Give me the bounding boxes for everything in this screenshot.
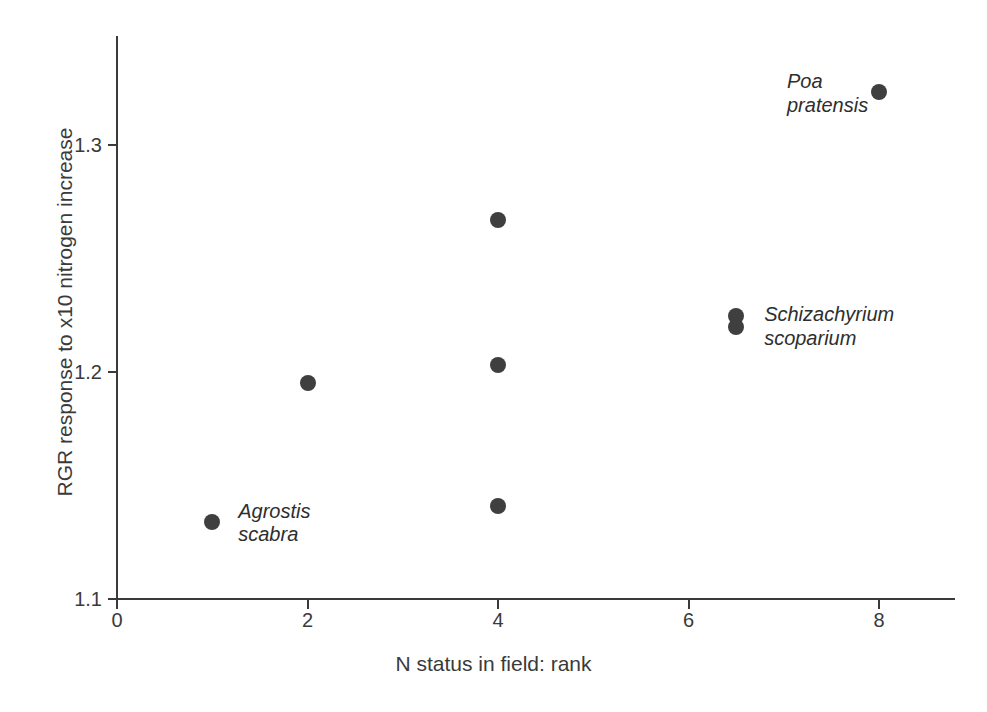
x-axis-tick-label: 8: [849, 609, 909, 632]
x-axis-tick-label: 0: [87, 609, 147, 632]
x-axis-line: [116, 598, 955, 600]
x-axis-tick: [307, 600, 309, 609]
x-axis-tick: [878, 600, 880, 609]
y-axis-tick: [108, 144, 117, 146]
scatter-point: [871, 84, 887, 100]
x-axis-tick: [688, 600, 690, 609]
scatter-point: [490, 357, 506, 373]
scatter-plot-figure: 1.11.21.3 02468 Agrostis scabraSchizachy…: [0, 0, 987, 712]
y-axis-tick: [108, 371, 117, 373]
y-axis-line: [116, 36, 118, 600]
point-label: Schizachyrium scoparium: [764, 303, 894, 350]
x-axis-tick: [497, 600, 499, 609]
point-label: Poa pratensis: [787, 70, 868, 117]
scatter-point: [490, 498, 506, 514]
scatter-point: [204, 514, 220, 530]
point-label: Agrostis scabra: [238, 500, 310, 547]
x-axis-tick-label: 6: [659, 609, 719, 632]
x-axis-tick-label: 2: [278, 609, 338, 632]
x-axis-title: N status in field: rank: [0, 652, 987, 676]
scatter-point: [300, 375, 316, 391]
x-axis-tick-label: 4: [468, 609, 528, 632]
y-axis-title: RGR response to x10 nitrogen increase: [53, 32, 77, 592]
scatter-point: [728, 319, 744, 335]
scatter-point: [490, 212, 506, 228]
x-axis-tick: [116, 600, 118, 609]
